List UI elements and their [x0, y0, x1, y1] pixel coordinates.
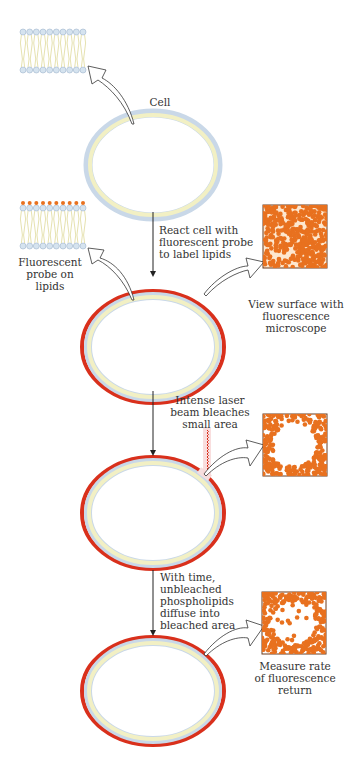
fluorescent-lipid-dot — [273, 596, 278, 601]
fluorescent-lipid-dot — [298, 263, 303, 268]
lipid-tail — [57, 211, 59, 243]
fluorescent-lipid-dot — [266, 412, 271, 417]
lipid-tail — [50, 211, 52, 243]
fluorescent-lipid-dot — [269, 261, 274, 266]
lipid-head — [60, 205, 66, 211]
lipid-tail — [67, 35, 69, 67]
fluorescent-probe-dot — [41, 201, 45, 205]
fluorescent-lipid-dot — [281, 649, 286, 654]
fluorescent-lipid-dot — [295, 615, 300, 620]
fluorescent-lipid-dot — [318, 445, 323, 450]
lipid-tail — [77, 35, 79, 67]
fluorescent-lipid-dot — [289, 220, 294, 225]
lipid-tail — [20, 211, 22, 243]
fluorescent-lipid-dot — [287, 206, 292, 211]
lipid-tail — [67, 211, 69, 243]
fluorescent-lipid-dot — [286, 471, 291, 476]
fluorescent-lipid-dot — [298, 467, 303, 472]
fluorescent-lipid-dot — [301, 244, 306, 249]
fluorescent-lipid-dot — [310, 250, 315, 255]
lipid-head — [60, 29, 66, 35]
lipid-head — [40, 243, 46, 249]
microscope-inset-uniform — [261, 203, 329, 270]
fluorescent-lipid-dot — [321, 650, 326, 655]
lipid-tail — [64, 211, 66, 243]
fluorescent-lipid-dot — [286, 419, 291, 424]
fluorescent-lipid-dot — [276, 213, 281, 218]
fluorescent-lipid-dot — [275, 618, 280, 623]
lipid-head — [80, 29, 86, 35]
microscope-inset-recovering — [260, 590, 329, 656]
fluorescent-lipid-dot — [274, 243, 279, 248]
step-2-text: Intense laser beam bleaches small area — [170, 394, 250, 430]
lipid-tail — [30, 35, 32, 67]
fluorescent-lipid-dot — [278, 642, 283, 647]
fluorescent-lipid-dot — [286, 215, 291, 220]
fluorescent-lipid-dot — [263, 611, 268, 616]
fluorescent-lipid-dot — [262, 459, 267, 464]
fluorescent-lipid-dot — [284, 247, 289, 252]
lipid-tail — [37, 35, 39, 67]
diagram-canvas — [0, 0, 354, 771]
fluorescent-lipid-dot — [297, 609, 302, 614]
fluorescent-lipid-dot — [271, 643, 276, 648]
fluorescent-lipid-dot — [320, 461, 325, 466]
fluorescent-lipid-dot — [276, 218, 281, 223]
fluorescent-lipid-dot — [262, 605, 267, 610]
fluorescent-lipid-dot — [285, 466, 290, 471]
fluorescent-lipid-dot — [291, 203, 296, 208]
fluorescent-lipid-dot — [292, 590, 297, 595]
lipid-tail — [37, 211, 39, 243]
lipid-head — [47, 205, 53, 211]
fluorescent-probe-dot — [21, 201, 25, 205]
fluorescent-lipid-dot — [295, 250, 300, 255]
fluorescent-lipid-dot — [278, 595, 283, 600]
fluorescent-lipid-dot — [278, 245, 283, 250]
fluorescent-lipid-dot — [262, 598, 267, 603]
lipid-head — [27, 243, 33, 249]
fluorescent-lipid-dot — [286, 260, 291, 265]
measure-rate-label: Measure rate of fluorescence return — [250, 660, 340, 696]
fluorescent-lipid-dot — [266, 222, 271, 227]
lipid-head — [33, 29, 39, 35]
fluorescent-lipid-dot — [317, 647, 322, 652]
fluorescent-lipid-dot — [273, 606, 278, 611]
fluorescent-lipid-dot — [319, 260, 324, 265]
lipid-tail — [54, 35, 56, 67]
fluorescent-lipid-dot — [284, 264, 289, 269]
fluorescent-lipid-dot — [294, 242, 299, 247]
fluorescent-lipid-dot — [290, 638, 295, 643]
lipid-head — [53, 205, 59, 211]
fluorescent-lipid-dot — [274, 637, 279, 642]
fluorescent-lipid-dot — [279, 228, 284, 233]
lipid-head — [67, 205, 73, 211]
fluorescent-lipid-dot — [291, 231, 296, 236]
fluorescent-lipid-dot — [324, 237, 329, 242]
fluorescent-lipid-dot — [264, 639, 269, 644]
fluorescent-lipid-dot — [262, 255, 267, 260]
lipid-tail — [24, 35, 26, 67]
fluorescent-lipid-dot — [320, 636, 325, 641]
lipid-tail — [27, 35, 29, 67]
fluorescent-lipid-dot — [314, 224, 319, 229]
lipid-head — [47, 29, 53, 35]
fluorescent-lipid-dot — [286, 229, 291, 234]
fluorescent-probe-dot — [68, 201, 72, 205]
fluorescent-lipid-dot — [289, 237, 294, 242]
lipid-tail — [70, 211, 72, 243]
fluorescent-lipid-dot — [321, 206, 326, 211]
fluorescent-probe-label: Fluorescent probe on lipids — [10, 256, 90, 292]
fluorescent-lipid-dot — [284, 597, 289, 602]
fluorescent-lipid-dot — [270, 463, 275, 468]
fluorescent-lipid-dot — [305, 229, 310, 234]
fluorescent-lipid-dot — [290, 265, 295, 270]
lipid-tail — [40, 211, 42, 243]
fluorescent-lipid-dot — [321, 644, 326, 649]
fluorescent-lipid-dot — [274, 205, 279, 210]
cell-unlabeled — [88, 113, 218, 217]
fluorescent-lipid-dot — [279, 414, 284, 419]
lipid-head — [47, 243, 53, 249]
fluorescent-lipid-dot — [289, 211, 294, 216]
lipid-bilayer-plain — [20, 29, 86, 73]
lipid-head — [53, 67, 59, 73]
